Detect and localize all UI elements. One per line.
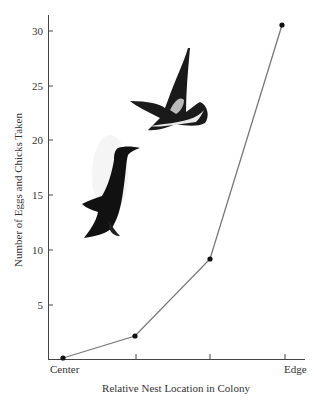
svg-text:10: 10	[32, 244, 44, 256]
point-3	[207, 256, 212, 261]
svg-text:15: 15	[32, 189, 44, 201]
x-ticks	[136, 354, 285, 359]
gull-illustration	[130, 48, 208, 130]
y-tick-labels: 5 10 15 20 25 30	[32, 25, 44, 311]
svg-text:30: 30	[32, 25, 44, 37]
x-label-center: Center	[50, 363, 80, 375]
svg-text:5: 5	[38, 299, 44, 311]
point-2	[132, 333, 137, 338]
cormorant-illustration	[82, 135, 140, 238]
y-axis-title: Number of Eggs and Chicks Taken	[12, 113, 24, 267]
point-center	[60, 355, 65, 360]
point-edge	[279, 22, 284, 27]
svg-text:25: 25	[32, 80, 44, 92]
x-label-edge: Edge	[284, 363, 307, 375]
chart: 5 10 15 20 25 30 Center Edge Relative Ne…	[0, 0, 316, 407]
x-axis-title: Relative Nest Location in Colony	[102, 382, 250, 394]
svg-text:20: 20	[32, 134, 44, 146]
